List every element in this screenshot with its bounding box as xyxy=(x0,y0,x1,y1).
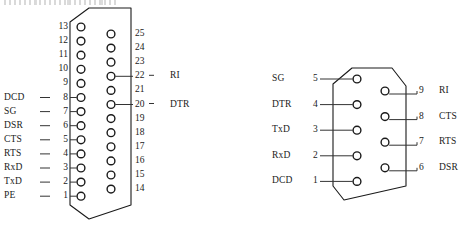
db25-pin-17-number: 17 xyxy=(135,142,145,152)
db25-pin-15-hole xyxy=(107,171,115,179)
db9-right-pin-holes xyxy=(381,87,389,172)
db25-pin-1-hole xyxy=(77,192,85,200)
db25-pin-17-hole xyxy=(107,143,115,151)
db25-pin-20-hole xyxy=(107,101,115,109)
db9-pin-2-number: 2 xyxy=(313,151,318,161)
db9-connector-shell xyxy=(333,68,406,200)
db25-pin-11-number: 11 xyxy=(0,50,68,60)
db25-pin-18-hole xyxy=(107,129,115,137)
db25-pin-16-hole xyxy=(107,157,115,165)
db25-pin-2-hole xyxy=(77,178,85,186)
db25-signal-dtr: DTR xyxy=(170,100,190,110)
db9-signal-cts: CTS xyxy=(439,112,457,122)
db9-signal-dsr: DSR xyxy=(439,163,458,173)
db25-pin-13-number: 13 xyxy=(0,22,68,32)
db25-pin-18-number: 18 xyxy=(135,128,145,138)
diagram-canvas xyxy=(0,0,469,227)
db9-pin-6-number: 6 xyxy=(419,163,424,173)
db9-pin-7-hole xyxy=(381,138,389,146)
db25-pin-25-number: 25 xyxy=(135,29,145,39)
db25-pin-20-number: 20 xyxy=(135,100,145,110)
db25-pin-19-hole xyxy=(107,115,115,123)
db25-pin-23-hole xyxy=(107,58,115,66)
db9-pin-4-hole xyxy=(353,101,361,109)
db25-signal-dsr: DSR xyxy=(4,121,23,131)
db9-pin-8-hole xyxy=(381,113,389,121)
db9-signal-ri: RI xyxy=(439,86,449,96)
db25-pin-9-number: 9 xyxy=(0,78,68,88)
db25-pin-24-number: 24 xyxy=(135,43,145,53)
db25-pin-25-hole xyxy=(107,30,115,38)
db9-signal-rxd: RxD xyxy=(272,151,291,161)
db25-pin-7-hole xyxy=(77,108,85,116)
db25-pin-12-number: 12 xyxy=(0,36,68,46)
db25-pin-11-hole xyxy=(77,51,85,59)
db25-pin-10-number: 10 xyxy=(0,64,68,74)
pin-lead-lines xyxy=(40,75,417,196)
db9-pin-9-number: 9 xyxy=(419,86,424,96)
db25-pin-16-number: 16 xyxy=(135,156,145,166)
db9-pin-8-number: 8 xyxy=(419,112,424,122)
db25-signal-dcd: DCD xyxy=(4,93,25,103)
db9-left-pin-holes xyxy=(353,75,361,185)
db25-signal-rts: RTS xyxy=(4,149,21,159)
db25-pin-4-hole xyxy=(77,150,85,158)
db25-pin-13-hole xyxy=(77,23,85,31)
db9-pin-7-number: 7 xyxy=(419,137,424,147)
db25-pin-24-hole xyxy=(107,44,115,52)
db25-pin-21-hole xyxy=(107,87,115,95)
db25-right-pin-holes xyxy=(107,30,115,193)
db25-pin-3-hole xyxy=(77,164,85,172)
db25-signal-cts: CTS xyxy=(4,135,22,145)
db25-pin-15-number: 15 xyxy=(135,170,145,180)
db9-signal-dcd: DCD xyxy=(272,176,293,186)
db9-signal-sg: SG xyxy=(272,74,285,84)
db9-signal-txd: TxD xyxy=(272,125,290,135)
db9-pin-3-hole xyxy=(353,126,361,134)
db25-left-pin-holes xyxy=(77,23,85,200)
db9-pin-4-number: 4 xyxy=(313,100,318,110)
db25-pin-19-number: 19 xyxy=(135,114,145,124)
db25-signal-ri: RI xyxy=(170,71,180,81)
db25-pin-22-number: 22 xyxy=(135,71,145,81)
db25-pin-5-hole xyxy=(77,136,85,144)
db9-pin-1-hole xyxy=(353,178,361,186)
db9-pin-3-number: 3 xyxy=(313,125,318,135)
db25-pin-14-hole xyxy=(107,185,115,193)
db25-pin-10-hole xyxy=(77,65,85,73)
db25-pin-6-hole xyxy=(77,122,85,130)
db9-pin-2-hole xyxy=(353,152,361,160)
db25-signal-sg: SG xyxy=(4,107,17,117)
db25-signal-pe: PE xyxy=(4,191,16,201)
db9-signal-dtr: DTR xyxy=(272,100,292,110)
db25-signal-txd: TxD xyxy=(4,177,22,187)
db25-connector-shell xyxy=(70,8,131,219)
db9-pin-6-hole xyxy=(381,164,389,172)
db25-pin-9-hole xyxy=(77,80,85,88)
db25-pin-21-number: 21 xyxy=(135,85,145,95)
db25-pin-12-hole xyxy=(77,37,85,45)
db9-pin-5-hole xyxy=(353,75,361,83)
db9-pin-5-number: 5 xyxy=(313,74,318,84)
db9-pin-1-number: 1 xyxy=(313,176,318,186)
db9-signal-rts: RTS xyxy=(439,137,456,147)
pinout-diagram: 1312111098DCD7SG6DSR5CTS4RTS3RxD2TxD1PE2… xyxy=(0,0,469,227)
db9-pin-9-hole xyxy=(381,87,389,95)
db25-signal-rxd: RxD xyxy=(4,163,23,173)
db25-pin-22-hole xyxy=(107,72,115,80)
db25-pin-14-number: 14 xyxy=(135,184,145,194)
db25-pin-8-hole xyxy=(77,94,85,102)
db25-pin-23-number: 23 xyxy=(135,57,145,67)
